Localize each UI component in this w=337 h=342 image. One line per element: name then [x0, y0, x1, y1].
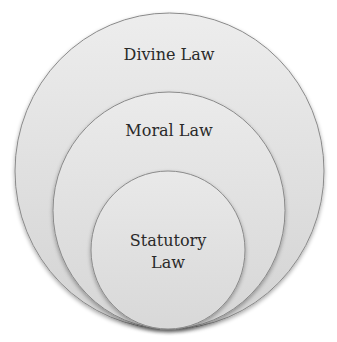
circle-statutory-law: [91, 171, 245, 329]
moral-law-label: Moral Law: [125, 121, 213, 140]
nested-law-diagram: Divine Law Moral Law Statutory Law: [0, 0, 337, 342]
divine-law-label: Divine Law: [124, 45, 215, 64]
statutory-law-label-line1: Statutory: [130, 231, 206, 250]
statutory-law-label-line2: Law: [151, 253, 185, 272]
